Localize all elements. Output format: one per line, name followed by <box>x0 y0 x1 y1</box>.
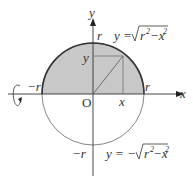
svg-text:2: 2 <box>165 145 169 154</box>
r-left-label: −r <box>27 79 42 94</box>
svg-text:y =: y = <box>112 28 132 43</box>
lower-curve-equation: y = − r 2 −x 2 <box>104 144 169 161</box>
svg-text:y = −: y = − <box>104 146 136 161</box>
r-top-label: r <box>97 28 103 43</box>
rotation-arrow-icon <box>13 85 20 106</box>
r-bottom-label: −r <box>72 146 87 161</box>
upper-curve-equation: y = r 2 −x 2 <box>112 26 168 43</box>
r-right-label: r <box>145 79 151 94</box>
point-x-label: x <box>118 94 125 109</box>
origin-label: O <box>82 95 91 110</box>
y-axis-label: y <box>87 5 95 20</box>
svg-text:2: 2 <box>163 27 167 36</box>
point-y-label: y <box>81 50 89 65</box>
x-axis-label: x <box>179 86 186 101</box>
solid-of-revolution-diagram: y x O r r −r −r y x y = r 2 −x 2 y = − r… <box>0 0 193 182</box>
